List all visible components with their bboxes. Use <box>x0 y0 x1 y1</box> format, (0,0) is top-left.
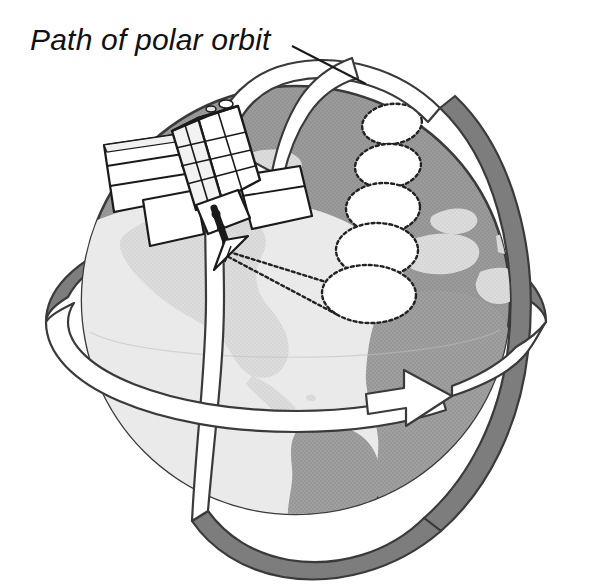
figure-root: Path of polar orbit <box>0 0 592 587</box>
polar-orbit-diagram: Path of polar orbit <box>0 0 592 587</box>
polar-orbit-label: Path of polar orbit <box>30 23 272 56</box>
land-south-america <box>288 424 380 552</box>
polar-band-behind-bottom <box>192 511 441 579</box>
